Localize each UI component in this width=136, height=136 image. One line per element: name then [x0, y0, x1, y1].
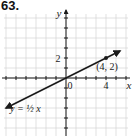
coordinate-plane: xy420y = ½ x(4, 2) [0, 0, 136, 136]
series-label: y = ½ x [9, 103, 41, 114]
x-axis-label: x [126, 79, 132, 91]
y-tick-label: 2 [56, 53, 61, 64]
data-point-label: (4, 2) [96, 61, 118, 73]
x-tick-label: 4 [104, 80, 109, 91]
origin-label: 0 [68, 80, 73, 91]
data-point [104, 56, 108, 60]
y-axis-label: y [56, 7, 62, 19]
axes [2, 10, 130, 136]
